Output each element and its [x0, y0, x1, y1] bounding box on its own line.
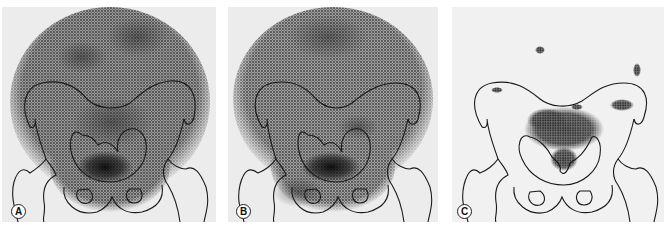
scintigram-a — [2, 7, 216, 222]
panel-label-a: A — [11, 204, 26, 219]
tracer-activity-c — [452, 7, 664, 222]
panel-b: B — [228, 7, 438, 222]
panel-c: C — [452, 7, 664, 222]
hot-spot-a — [77, 151, 133, 183]
scintigram-c — [452, 7, 664, 222]
hot-spot-b — [301, 152, 361, 182]
panel-label-c: C — [457, 204, 472, 219]
scintigram-b — [228, 7, 438, 222]
panel-a: A — [2, 7, 216, 222]
panel-label-b: B — [236, 204, 251, 219]
